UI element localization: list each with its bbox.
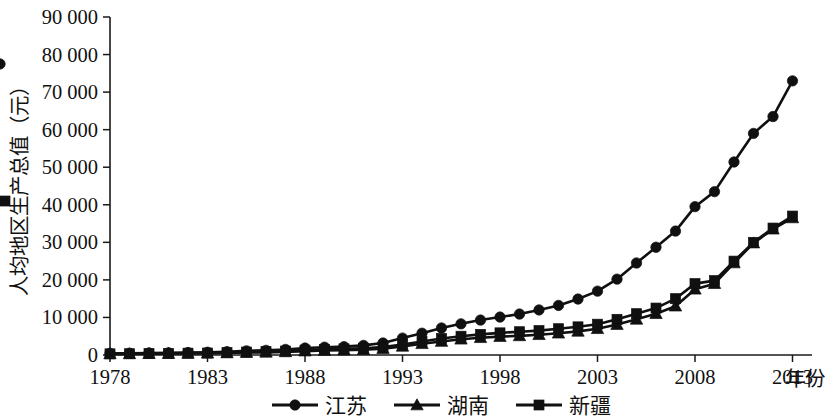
x-axis: 19781983198819931998200320082013	[90, 355, 814, 388]
y-tick-label: 50 000	[42, 156, 98, 178]
x-tick-label: 1983	[187, 366, 228, 388]
data-point-江苏	[534, 305, 544, 315]
y-axis-title: 人均地区生产总值（元）	[9, 76, 31, 296]
y-tick-label: 20 000	[42, 269, 98, 291]
data-point-江苏	[748, 128, 758, 138]
legend-label-新疆: 新疆	[569, 394, 611, 418]
data-point-新疆	[320, 344, 330, 354]
legend-marker-江苏	[290, 400, 300, 410]
legend-item-江苏[interactable]: 江苏	[272, 394, 367, 418]
data-point-江苏	[670, 226, 680, 236]
data-point-新疆	[300, 345, 310, 355]
data-point-新疆	[749, 237, 759, 247]
data-point-江苏	[456, 319, 466, 329]
y-tick-label: 40 000	[42, 194, 98, 216]
data-point-新疆	[573, 322, 583, 332]
series-line-江苏	[110, 81, 793, 354]
data-point-新疆	[651, 303, 661, 313]
legend-label-江苏: 江苏	[325, 394, 367, 418]
series-江苏	[0, 59, 798, 359]
data-point-新疆	[612, 314, 622, 324]
legend-marker-新疆	[534, 400, 544, 410]
data-point-新疆	[671, 294, 681, 304]
data-point-江苏	[631, 258, 641, 268]
y-axis: 010 00020 00030 00040 00050 00060 00070 …	[42, 6, 110, 366]
data-point-江苏	[651, 242, 661, 252]
data-point-江苏	[514, 309, 524, 319]
chart-page: 010 00020 00030 00040 00050 00060 00070 …	[0, 0, 829, 419]
data-point-新疆	[242, 347, 252, 357]
data-point-新疆	[164, 348, 174, 358]
chart-legend: 江苏湖南新疆	[272, 394, 611, 418]
data-point-江苏	[787, 76, 797, 86]
y-tick-label: 80 000	[42, 44, 98, 66]
data-point-新疆	[456, 331, 466, 341]
data-point-江苏	[612, 274, 622, 284]
x-tick-label: 2008	[675, 366, 716, 388]
data-point-新疆	[105, 349, 115, 359]
x-axis-title: 年份	[785, 368, 825, 390]
data-point-江苏	[768, 111, 778, 121]
series-layer	[0, 59, 799, 359]
gdp-per-capita-line-chart: 010 00020 00030 00040 00050 00060 00070 …	[0, 0, 829, 419]
data-point-新疆	[476, 329, 486, 339]
y-tick-label: 10 000	[42, 306, 98, 328]
data-point-新疆	[144, 349, 154, 359]
x-tick-label: 1988	[285, 366, 326, 388]
data-point-新疆	[359, 343, 369, 353]
data-point-新疆	[632, 309, 642, 319]
data-point-江苏	[690, 201, 700, 211]
y-tick-label: 70 000	[42, 81, 98, 103]
data-point-新疆	[339, 344, 349, 354]
data-point-新疆	[495, 328, 505, 338]
data-point-新疆	[768, 223, 778, 233]
data-point-新疆	[437, 333, 447, 343]
data-point-新疆	[125, 349, 135, 359]
data-point-新疆	[515, 327, 525, 337]
data-point-新疆	[398, 339, 408, 349]
data-point-江苏	[573, 294, 583, 304]
data-point-新疆	[593, 319, 603, 329]
data-point-新疆	[690, 279, 700, 289]
y-tick-label: 60 000	[42, 119, 98, 141]
data-point-新疆	[203, 348, 213, 358]
x-tick-label: 2003	[577, 366, 618, 388]
data-point-新疆	[417, 336, 427, 346]
data-point-新疆	[222, 348, 232, 358]
legend-label-湖南: 湖南	[447, 394, 489, 418]
chart-canvas: 010 00020 00030 00040 00050 00060 00070 …	[0, 0, 829, 419]
data-point-江苏	[495, 312, 505, 322]
y-tick-label: 30 000	[42, 231, 98, 253]
data-point-新疆	[554, 324, 564, 334]
y-tick-label: 90 000	[42, 6, 98, 28]
data-point-新疆	[534, 326, 544, 336]
data-point-江苏	[436, 323, 446, 333]
data-point-新疆	[710, 276, 720, 286]
data-point-江苏	[475, 315, 485, 325]
data-point-江苏	[553, 300, 563, 310]
data-point-江苏	[709, 186, 719, 196]
data-point-江苏	[729, 157, 739, 167]
data-point-新疆	[183, 348, 193, 358]
legend-item-新疆[interactable]: 新疆	[516, 394, 611, 418]
x-tick-label: 1998	[480, 366, 521, 388]
x-tick-label: 1978	[90, 366, 131, 388]
data-point-新疆	[788, 211, 798, 221]
data-point-新疆	[729, 256, 739, 266]
y-tick-label: 0	[88, 344, 98, 366]
legend-item-湖南[interactable]: 湖南	[394, 394, 489, 418]
data-point-新疆	[281, 346, 291, 356]
data-point-江苏	[592, 286, 602, 296]
data-point-新疆	[378, 342, 388, 352]
x-tick-label: 1993	[382, 366, 423, 388]
data-point-江苏	[0, 59, 5, 69]
data-point-新疆	[261, 347, 271, 357]
